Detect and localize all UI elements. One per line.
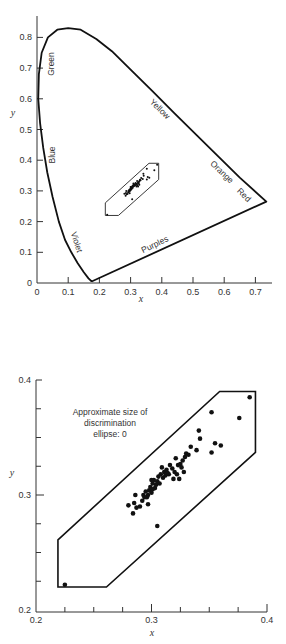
top-y-tick-label: 0.5 <box>19 125 32 135</box>
top-y-tick-label: 0.2 <box>19 217 32 227</box>
bottom-data-point <box>209 450 214 455</box>
bottom-x-tick-label: 0.2 <box>30 615 43 625</box>
annotation-line-2: discrimination <box>84 418 136 428</box>
top-x-tick-label: 0.7 <box>249 287 262 297</box>
bottom-data-point <box>175 472 180 477</box>
top-data-point <box>134 184 136 186</box>
annotation-line-1: Approximate size of <box>73 407 148 417</box>
top-x-tick-label: 0.4 <box>156 287 169 297</box>
top-data-point <box>148 177 150 179</box>
top-x-tick-label: 0.6 <box>218 287 231 297</box>
top-data-point <box>140 177 142 179</box>
top-data-point <box>140 179 142 181</box>
bottom-data-point <box>157 481 162 486</box>
bottom-data-point <box>150 487 155 492</box>
top-data-point <box>128 191 130 193</box>
top-data-point <box>131 198 133 200</box>
bottom-data-point <box>155 524 160 529</box>
bottom-data-point <box>194 448 199 453</box>
top-y-tick-label: 0.4 <box>19 155 32 165</box>
bottom-x-tick-label: 0.4 <box>261 615 274 625</box>
bottom-data-point <box>213 441 218 446</box>
top-data-point <box>138 184 140 186</box>
bottom-y-axis-title: y <box>9 467 15 478</box>
bottom-data-point <box>138 504 143 509</box>
bottom-data-point <box>219 443 224 448</box>
bottom-data-point <box>237 416 242 421</box>
label-green: Green <box>46 52 56 76</box>
top-data-point <box>137 182 139 184</box>
top-x-tick-label: 0.3 <box>124 287 137 297</box>
top-y-tick-label: 0.6 <box>19 94 32 104</box>
enlarged-scatter-plot: 0.20.30.4 0.20.30.4 x y Approximate size… <box>9 375 273 638</box>
top-x-ticks: 00.10.20.30.40.50.60.7 <box>34 277 261 297</box>
bottom-y-ticks: 0.20.30.4 <box>18 375 44 615</box>
top-y-tick-label: 0.1 <box>19 247 32 257</box>
top-data-point <box>106 214 108 216</box>
top-data-point <box>130 188 132 190</box>
top-data-point <box>142 173 144 175</box>
top-y-tick-label: 0.8 <box>19 32 32 42</box>
bottom-data-point <box>176 463 181 468</box>
bottom-data-point <box>209 410 214 415</box>
top-data-point <box>125 190 127 192</box>
top-data-point <box>137 186 139 188</box>
cie-chromaticity-diagram: 00.10.20.30.40.50.60.7 00.10.20.30.40.50… <box>10 16 272 304</box>
bottom-data-point <box>165 471 170 476</box>
top-data-point <box>130 186 132 188</box>
top-data-points <box>106 164 158 216</box>
top-x-axis-title: x <box>138 293 144 304</box>
annotation-line-3: ellipse: 0 <box>93 429 127 439</box>
top-data-point <box>146 179 148 181</box>
top-data-point <box>153 169 155 171</box>
bottom-data-point <box>171 477 176 482</box>
bottom-data-point <box>197 428 202 433</box>
bottom-data-point <box>247 395 252 400</box>
top-y-tick-label: 0.7 <box>19 63 32 73</box>
top-y-tick-label: 0 <box>27 278 32 288</box>
bottom-x-ticks: 0.20.30.4 <box>30 604 274 625</box>
top-data-point <box>146 168 148 170</box>
bottom-data-point <box>182 470 187 475</box>
bottom-data-point <box>132 501 137 506</box>
bottom-data-point <box>186 452 191 457</box>
bottom-x-tick-label: 0.3 <box>145 615 158 625</box>
top-data-point <box>156 164 158 166</box>
bottom-y-tick-label: 0.4 <box>18 375 31 385</box>
top-data-point <box>143 175 145 177</box>
chromaticity-figure: 00.10.20.30.40.50.60.7 00.10.20.30.40.50… <box>0 0 286 644</box>
bottom-data-point <box>133 493 138 498</box>
top-x-tick-label: 0.2 <box>93 287 106 297</box>
bottom-data-point <box>63 582 68 587</box>
top-data-point <box>129 192 131 194</box>
bottom-data-point <box>126 503 131 508</box>
bottom-x-axis-title: x <box>149 627 155 638</box>
bottom-y-tick-label: 0.2 <box>18 605 31 615</box>
label-blue: Blue <box>47 146 57 163</box>
top-x-tick-label: 0 <box>34 287 39 297</box>
bottom-data-point <box>177 477 182 482</box>
bottom-data-point <box>198 436 203 441</box>
bottom-data-point <box>142 495 147 500</box>
bottom-data-point <box>131 511 136 516</box>
top-x-tick-label: 0.5 <box>187 287 200 297</box>
top-y-tick-label: 0.3 <box>19 186 32 196</box>
label-orange: Orange <box>208 158 236 185</box>
bottom-y-tick-label: 0.3 <box>18 490 31 500</box>
bottom-data-point <box>160 465 165 470</box>
top-y-axis-title: y <box>10 107 16 118</box>
top-x-tick-label: 0.1 <box>62 287 75 297</box>
bottom-data-point <box>149 478 154 483</box>
bottom-data-point <box>173 456 178 461</box>
bottom-data-point <box>188 444 193 449</box>
bottom-data-point <box>146 502 151 507</box>
